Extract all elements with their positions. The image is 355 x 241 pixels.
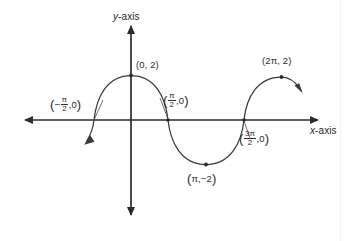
point-marker-2pi-2 bbox=[280, 75, 284, 79]
label-pi2-fraction: π2 bbox=[168, 92, 176, 110]
label-pi-neg2-close: ) bbox=[212, 171, 216, 186]
curve-left-arrowhead bbox=[84, 135, 94, 145]
label-point-3pi-over-2-0: (3π2,0) bbox=[239, 130, 269, 148]
point-marker-pi-neg2 bbox=[204, 163, 208, 167]
label-point-pi-neg2: (π,−2) bbox=[187, 172, 216, 185]
label-3pi2-y: 0 bbox=[259, 133, 264, 144]
y-axis-label: y-axis bbox=[113, 12, 140, 22]
label-3pi2-fraction: 3π2 bbox=[244, 130, 256, 148]
label-point-pi-over-2-0: (π2,0) bbox=[163, 92, 189, 110]
y-axis-label-suffix: -axis bbox=[118, 11, 140, 22]
label-pi2-open: ( bbox=[163, 93, 167, 108]
label-3pi2-close: ) bbox=[265, 131, 269, 146]
label-pi2-close: ) bbox=[184, 93, 188, 108]
label-point-0-2-text: (0, 2) bbox=[136, 59, 159, 70]
x-axis-label: x-axis bbox=[310, 126, 337, 136]
label-point-2pi-2-text: (2π, 2) bbox=[262, 55, 291, 66]
label-point-neg-pi-over-2-0: (−π2,0) bbox=[50, 96, 81, 114]
coordinate-graph-figure: y-axis x-axis (0, 2) (2π, 2) (π,−2) (−π2… bbox=[0, 0, 355, 241]
label-3pi2-denominator: 2 bbox=[244, 139, 256, 148]
label-point-2pi-2: (2π, 2) bbox=[262, 56, 291, 66]
label-3pi2-open: ( bbox=[239, 131, 243, 146]
label-neg-pi2-sign: − bbox=[54, 99, 60, 110]
x-axis-label-suffix: -axis bbox=[315, 125, 337, 136]
label-neg-pi2-close: ) bbox=[77, 97, 81, 112]
label-pi-neg2-open: ( bbox=[187, 171, 191, 186]
label-point-0-2: (0, 2) bbox=[136, 60, 159, 70]
scan-edge-artifact bbox=[340, 0, 341, 241]
label-neg-pi2-denominator: 2 bbox=[61, 105, 69, 114]
label-neg-pi2-open: ( bbox=[50, 97, 54, 112]
point-marker-0-2 bbox=[129, 74, 133, 78]
label-neg-pi2-fraction: π2 bbox=[61, 96, 69, 114]
label-pi2-denominator: 2 bbox=[168, 101, 176, 110]
graph-canvas bbox=[0, 0, 355, 241]
curve-right-arrowhead bbox=[295, 83, 303, 93]
